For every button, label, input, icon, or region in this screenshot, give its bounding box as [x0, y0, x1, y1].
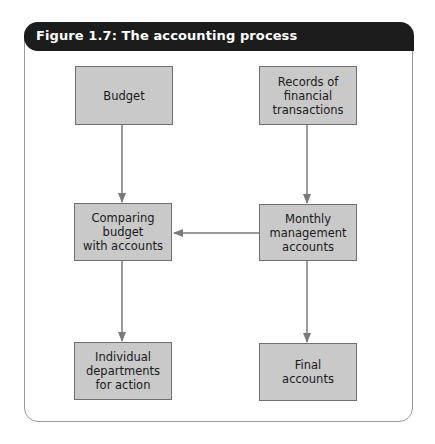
node-monthly: Monthly management accounts	[259, 204, 357, 261]
node-label: Final accounts	[282, 358, 334, 386]
node-label: Individual departments for action	[86, 350, 160, 392]
node-final: Final accounts	[259, 343, 357, 401]
node-records: Records of financial transactions	[259, 66, 357, 125]
node-budget: Budget	[75, 66, 173, 125]
node-label: Monthly management accounts	[269, 212, 346, 254]
node-label: Records of financial transactions	[273, 75, 344, 117]
node-label: Comparing budget with accounts	[75, 211, 171, 253]
connector-arrows	[0, 0, 435, 444]
node-individual: Individual departments for action	[74, 342, 172, 400]
node-comparing: Comparing budget with accounts	[74, 203, 172, 261]
node-label: Budget	[103, 89, 144, 103]
